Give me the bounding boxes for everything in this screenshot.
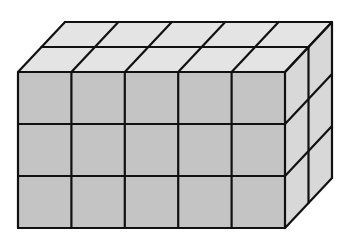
- front-face: [18, 72, 285, 228]
- front-face-fill: [18, 72, 285, 228]
- prism-figure: [0, 0, 341, 242]
- cube-prism-diagram: [0, 0, 341, 242]
